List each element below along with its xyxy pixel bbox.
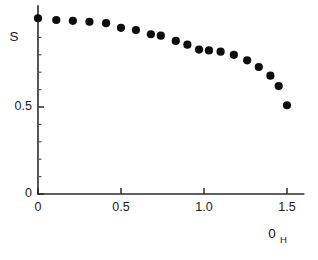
x-tick-label: 0 [35,200,42,214]
data-point [205,46,213,54]
data-point [266,72,274,80]
chart-figure: 00.51.01.500.5 S0H [0,0,318,260]
data-point [283,101,291,109]
x-axis-label: 0 [268,226,276,241]
data-point [275,82,283,90]
data-point [102,19,110,27]
data-point [85,18,93,26]
data-point [230,51,238,59]
data-point [172,37,180,45]
data-point [132,26,140,34]
data-point [217,48,225,56]
y-tick-label: 0.5 [15,99,32,113]
x-tick-label: 1.0 [195,200,212,214]
data-point [243,56,251,64]
x-tick-label: 1.5 [278,200,295,214]
scatter-plot: 00.51.01.500.5 S0H [0,0,318,260]
data-point [195,45,203,53]
data-point [117,24,125,32]
data-points-group [34,14,291,109]
data-point [69,17,77,25]
x-axis-label-subscript: H [280,234,287,245]
y-tick-label: 0 [25,186,32,200]
data-point [52,16,60,24]
data-point [34,14,42,22]
data-point [147,30,155,38]
data-point [157,32,165,40]
data-point [183,41,191,49]
y-axis-label: S [9,29,18,44]
ticks-group [38,20,287,194]
data-point [255,63,263,71]
x-tick-label: 0.5 [112,200,129,214]
tick-labels-group: 00.51.01.500.5 [15,99,296,214]
axes-group [38,6,304,194]
